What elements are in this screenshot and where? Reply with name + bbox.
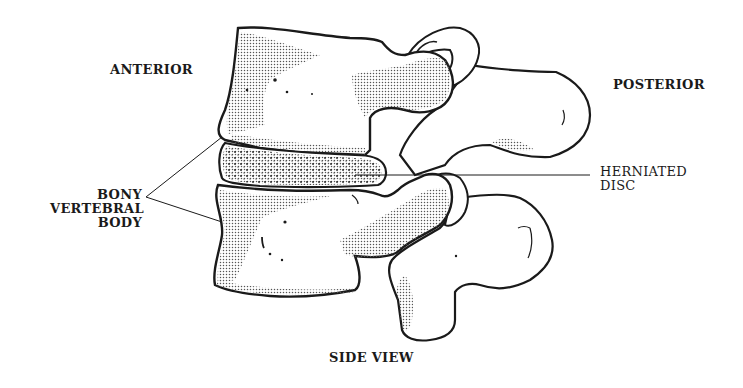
bony-label-line-1: BONY [50, 188, 142, 202]
herniated-label-line-2: DISC [600, 179, 687, 193]
leader-lower-body [146, 197, 222, 222]
herniated-label-line-1: HERNIATED [600, 165, 687, 179]
herniated-disc-label: HERNIATED DISC [600, 165, 687, 193]
leader-upper-body [146, 137, 222, 197]
bony-label-line-2: VERTEBRAL [50, 202, 142, 216]
bony-label-line-3: BODY [50, 216, 142, 230]
spine-diagram: ANTERIOR POSTERIOR BONY VERTEBRAL BODY H… [0, 0, 743, 388]
side-view-title: SIDE VIEW [329, 351, 414, 365]
posterior-label: POSTERIOR [613, 78, 705, 92]
anterior-label: ANTERIOR [110, 63, 193, 77]
bony-vertebral-body-label: BONY VERTEBRAL BODY [50, 188, 142, 230]
